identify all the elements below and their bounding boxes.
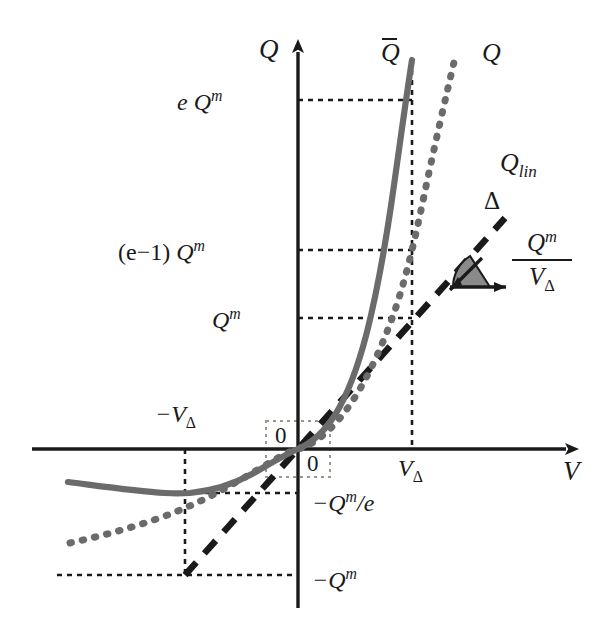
axis-lines <box>32 52 566 608</box>
plot-svg <box>0 0 606 625</box>
y-tick-label-neg-qm: −Qm <box>312 566 357 592</box>
slope-fraction-bar <box>512 259 572 261</box>
curve-label-q-lin-sub: lin <box>519 162 537 181</box>
y-tick-label-neg-qm-over-e: −Qm/e <box>312 489 374 515</box>
y-tick-label-e-qm: e Qm <box>177 88 222 114</box>
x-tick-label-v-delta: VΔ <box>398 456 423 485</box>
figure-canvas: Q V Q Q Qlin Δ Qm VΔ e Qm (e−1) Qm Qm −Q… <box>0 0 606 625</box>
delta-symbol-label: Δ <box>484 188 500 213</box>
origin-label-lower: 0 <box>307 452 319 475</box>
x-axis-label: V <box>563 458 580 485</box>
curve-label-q-bar: Q <box>381 40 400 66</box>
curve-q-bar-solid <box>68 60 412 493</box>
y-axis-label: Q <box>259 36 279 63</box>
y-tick-label-qm: Qm <box>212 306 241 332</box>
origin-label-upper: 0 <box>275 424 287 447</box>
curve-label-q-lin: Qlin <box>500 150 537 180</box>
slope-fraction-numerator: Qm <box>512 228 572 258</box>
curve-label-q: Q <box>482 40 501 66</box>
y-tick-label-e-minus-1-qm: (e−1) Qm <box>118 238 205 264</box>
x-tick-label-neg-v-delta: −VΔ <box>155 402 196 431</box>
slope-fraction-denominator: VΔ <box>512 263 572 294</box>
slope-angle-wedge <box>450 256 506 292</box>
slope-fraction: Qm VΔ <box>512 228 572 294</box>
